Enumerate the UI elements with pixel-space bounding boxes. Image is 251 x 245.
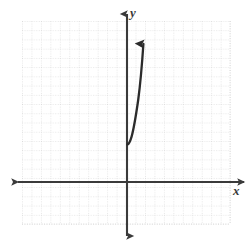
graph-figure: y x [0,0,251,245]
x-axis-label: x [233,184,240,197]
y-axis-label: y [130,6,136,19]
coordinate-plane [0,0,251,245]
